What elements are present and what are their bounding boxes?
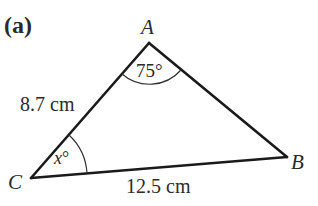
vertex-label-a: A [141,17,154,38]
degree-symbol: ° [62,148,69,168]
side-ab [149,43,287,157]
angle-variable-x: x [54,148,62,168]
part-label: (a) [4,13,32,37]
triangle-figure: (a) A B C 8.7 cm 12.5 cm 75° x° [0,0,318,206]
vertex-label-c: C [8,172,22,193]
angle-arc-c [69,135,87,173]
angle-label-a: 75° [136,61,163,80]
vertex-label-b: B [291,152,304,173]
angle-label-c: x° [54,149,69,167]
side-label-cb: 12.5 cm [126,176,190,196]
side-label-ca: 8.7 cm [20,94,74,114]
